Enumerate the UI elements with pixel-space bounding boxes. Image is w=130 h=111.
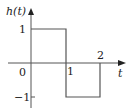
x-tick-label-2: 2	[97, 50, 104, 61]
x-axis-label: t	[118, 68, 122, 79]
x-tick-label-1: 1	[67, 66, 74, 77]
x-axis-arrow-icon	[118, 60, 126, 66]
y-axis-label: h(t)	[6, 6, 26, 17]
y-tick-label-neg1: −1	[14, 92, 30, 103]
y-axis-arrow-icon	[28, 8, 34, 15]
origin-label: 0	[19, 67, 26, 78]
y-tick-label-1: 1	[19, 24, 26, 35]
